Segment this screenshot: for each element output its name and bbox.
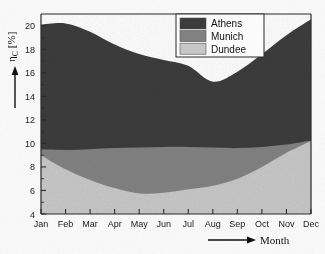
x-axis-arrow xyxy=(247,237,256,244)
x-axis-title: Month xyxy=(260,234,290,246)
x-axis-title-group: Month xyxy=(208,234,290,246)
x-tick-label: Dec xyxy=(303,219,320,229)
x-tick-label: May xyxy=(131,219,149,229)
y-axis-title: ηC [%] xyxy=(5,32,20,62)
figure-canvas: 468101214161820 JanFebMarAprMayJunJulAug… xyxy=(0,0,325,254)
svg-text:ηC [%]: ηC [%] xyxy=(5,32,20,62)
x-tick-label: Apr xyxy=(108,219,122,229)
y-tick-label: 10 xyxy=(25,139,35,149)
x-tick-label: Mar xyxy=(82,219,98,229)
legend-label-dundee: Dundee xyxy=(211,44,246,55)
y-tick-label: 14 xyxy=(25,92,35,102)
y-tick-label: 20 xyxy=(25,21,35,31)
legend[interactable]: AthensMunichDundee xyxy=(176,14,264,57)
y-tick-label: 12 xyxy=(25,115,35,125)
y-tick-label: 4 xyxy=(30,210,35,220)
x-tick-label: Jan xyxy=(34,219,49,229)
y-axis-arrow xyxy=(12,66,19,108)
x-tick-label: Nov xyxy=(278,219,295,229)
legend-label-munich: Munich xyxy=(211,31,243,42)
y-tick-label: 16 xyxy=(25,68,35,78)
legend-swatch-munich[interactable] xyxy=(180,31,206,42)
x-tick-label: Feb xyxy=(58,219,74,229)
legend-swatch-dundee[interactable] xyxy=(180,43,206,54)
legend-swatch-athens[interactable] xyxy=(180,18,206,29)
legend-label-athens: Athens xyxy=(211,18,242,29)
x-tick-label: Oct xyxy=(255,219,270,229)
y-tick-label: 18 xyxy=(25,45,35,55)
x-tick-label: Jul xyxy=(183,219,195,229)
x-tick-label: Aug xyxy=(205,219,221,229)
y-axis-title-unit: [%] xyxy=(5,32,17,49)
stacked-area-chart: 468101214161820 JanFebMarAprMayJunJulAug… xyxy=(0,0,325,254)
x-tick-label: Jun xyxy=(156,219,171,229)
y-tick-label: 8 xyxy=(30,162,35,172)
x-tick-label: Sep xyxy=(229,219,245,229)
y-tick-label: 6 xyxy=(30,186,35,196)
